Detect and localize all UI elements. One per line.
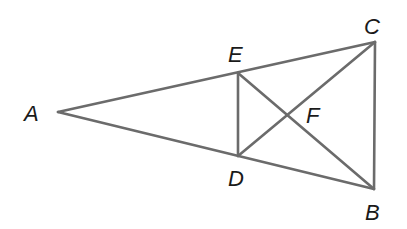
segment-DC [238,42,375,156]
segment-AC [58,42,375,112]
geometry-diagram: A E C F D B [0,0,407,229]
label-D: D [228,166,244,191]
label-C: C [364,14,380,39]
label-A: A [22,101,39,126]
label-E: E [228,42,243,67]
label-B: B [365,200,380,225]
segment-AB [58,112,374,189]
segment-CB [374,42,375,189]
label-F: F [306,103,321,128]
